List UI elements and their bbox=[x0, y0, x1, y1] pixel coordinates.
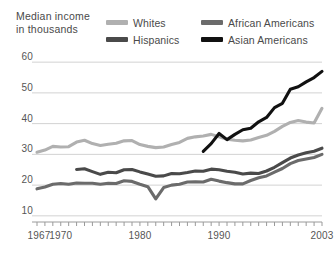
series-line-asian-americans bbox=[203, 71, 322, 151]
y-tick-label-60: 60 bbox=[11, 51, 33, 62]
x-tick-label-2003: 2003 bbox=[310, 230, 333, 241]
x-tick-label-1990: 1990 bbox=[208, 230, 231, 241]
series-line-hispanics bbox=[77, 148, 322, 176]
series-line-whites bbox=[37, 108, 322, 152]
y-tick-label-50: 50 bbox=[11, 82, 33, 93]
x-tick-label-1980: 1980 bbox=[128, 230, 151, 241]
y-tick-label-40: 40 bbox=[11, 113, 33, 124]
y-tick-label-10: 10 bbox=[11, 205, 33, 216]
y-tick-label-30: 30 bbox=[11, 143, 33, 154]
x-tick-label-1967: 1967 bbox=[27, 230, 50, 241]
x-tick-label-1970: 1970 bbox=[49, 230, 72, 241]
y-tick-label-20: 20 bbox=[11, 174, 33, 185]
series-line-african-americans bbox=[37, 154, 322, 199]
